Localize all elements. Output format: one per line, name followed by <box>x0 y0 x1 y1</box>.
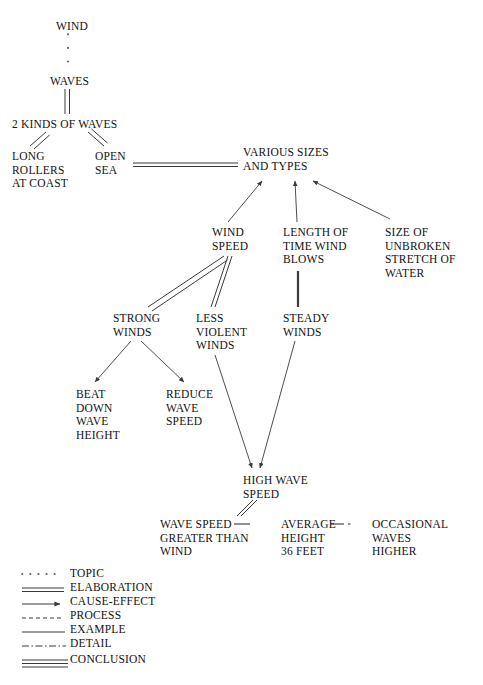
legend-sample-conclusion <box>22 660 68 667</box>
node-wind-speed: WIND SPEED <box>212 226 248 253</box>
node-waves: WAVES <box>50 75 89 89</box>
edge-two-kinds-to-long-rollers <box>30 132 50 149</box>
edge-waves-to-two-kinds <box>65 89 70 114</box>
legend-sample-elaboration <box>22 588 64 592</box>
node-beat-down-wave-height: BEAT DOWN WAVE HEIGHT <box>76 388 120 442</box>
edge-high-wave-to-wave-greater <box>237 500 257 516</box>
legend-label-example: EXAMPLE <box>70 623 126 637</box>
edge-less-violent-to-high-wave <box>215 355 252 468</box>
node-various-sizes-and-types: VARIOUS SIZES AND TYPES <box>243 146 329 173</box>
legend-label-detail: DETAIL <box>70 637 112 651</box>
edge-wind-speed-to-various <box>228 181 262 222</box>
node-strong-winds: STRONG WINDS <box>113 312 160 339</box>
node-wind: WIND <box>56 20 88 34</box>
node-wave-speed-greater-than-wind: WAVE SPEED GREATER THAN WIND <box>160 518 249 559</box>
edge-steady-winds-to-high-wave <box>260 341 295 468</box>
node-average-height-36-feet: AVERAGE HEIGHT 36 FEET <box>281 518 336 559</box>
legend-label-elaboration: ELABORATION <box>70 581 153 595</box>
legend-label-topic: TOPIC <box>70 567 104 581</box>
edge-size-stretch-to-various <box>313 181 390 219</box>
node-open-sea: OPEN SEA <box>95 150 126 177</box>
node-size-of-unbroken-stretch-of-water: SIZE OF UNBROKEN STRETCH OF WATER <box>385 226 456 280</box>
edge-open-sea-to-various <box>133 163 238 167</box>
legend-label-cause-effect: CAUSE-EFFECT <box>70 595 155 609</box>
edge-strong-winds-to-reduce <box>141 341 184 382</box>
legend-label-conclusion: CONCLUSION <box>70 653 146 667</box>
node-high-wave-speed: HIGH WAVE SPEED <box>243 474 308 501</box>
node-2-kinds-of-waves: 2 KINDS OF WAVES <box>12 118 117 132</box>
edge-strong-winds-to-beat-down <box>95 341 131 382</box>
edge-length-time-to-various <box>295 181 297 222</box>
node-less-violent-winds: LESS VIOLENT WINDS <box>196 312 247 353</box>
node-long-rollers-at-coast: LONG ROLLERS AT COAST <box>12 150 68 191</box>
node-length-of-time-wind-blows: LENGTH OF TIME WIND BLOWS <box>283 226 348 267</box>
node-reduce-wave-speed: REDUCE WAVE SPEED <box>166 388 213 429</box>
node-occasional-waves-higher: OCCASIONAL WAVES HIGHER <box>372 518 448 559</box>
node-steady-winds: STEADY WINDS <box>283 312 330 339</box>
legend-label-process: PROCESS <box>70 609 121 623</box>
edge-wind-speed-to-strong-winds <box>148 256 228 311</box>
